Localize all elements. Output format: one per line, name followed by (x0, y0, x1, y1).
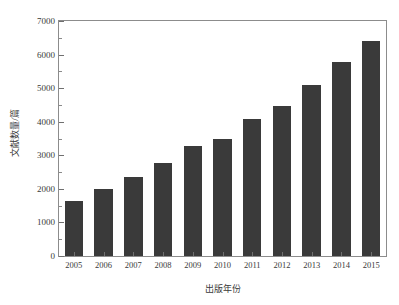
x-axis-tick-label: 2009 (184, 260, 201, 270)
plot-area: 0100020003000400050006000700020052006200… (59, 21, 386, 256)
bar (94, 189, 112, 256)
bar (273, 106, 291, 256)
y-axis-tick: 4000 (59, 122, 64, 123)
y-axis-tick: 7000 (59, 21, 64, 22)
bar (184, 146, 202, 256)
y-axis-tick-label: 4000 (37, 117, 55, 126)
x-axis-tick-label: 2008 (155, 260, 172, 270)
x-axis-tick: 2012 (282, 252, 283, 256)
y-axis-minor-tick (59, 239, 62, 240)
y-axis-minor-tick (59, 71, 62, 72)
x-axis-tick-label: 2012 (273, 260, 290, 270)
bar (154, 163, 172, 256)
y-axis-tick: 5000 (59, 88, 64, 89)
y-axis-tick-label: 7000 (37, 17, 55, 26)
x-axis-tick: 2005 (74, 252, 75, 256)
bar (362, 41, 380, 256)
bar (332, 62, 350, 256)
y-axis-tick: 6000 (59, 55, 64, 56)
bar-chart-figure: 文献数量/篇 010002000300040005000600070002005… (0, 0, 399, 305)
y-axis-title: 文献数量/篇 (8, 15, 22, 252)
x-axis-tick: 2009 (193, 252, 194, 256)
x-axis-tick-label: 2015 (363, 260, 380, 270)
x-axis-tick-label: 2014 (333, 260, 350, 270)
plot-frame: 0100020003000400050006000700020052006200… (58, 20, 387, 257)
y-axis-minor-tick (59, 172, 62, 173)
x-axis-tick: 2010 (223, 252, 224, 256)
x-axis-tick-label: 2006 (95, 260, 112, 270)
x-axis-tick: 2006 (104, 252, 105, 256)
y-axis-tick: 1000 (59, 222, 64, 223)
bar (213, 139, 231, 257)
y-axis-minor-tick (59, 38, 62, 39)
y-axis-minor-tick (59, 139, 62, 140)
bar (243, 119, 261, 256)
bar (65, 201, 83, 256)
y-axis-tick-label: 1000 (37, 218, 55, 227)
x-axis-tick-label: 2011 (244, 260, 261, 270)
x-axis-tick: 2008 (163, 252, 164, 256)
bar (124, 177, 142, 256)
y-axis-tick-label: 5000 (37, 84, 55, 93)
y-axis-tick-label: 6000 (37, 50, 55, 59)
x-axis-tick: 2014 (341, 252, 342, 256)
y-axis-minor-tick (59, 105, 62, 106)
y-axis-tick: 3000 (59, 155, 64, 156)
x-axis-tick: 2013 (312, 252, 313, 256)
y-axis-minor-tick (59, 206, 62, 207)
x-axis-title: 出版年份 (58, 283, 388, 295)
x-axis-tick: 2011 (252, 252, 253, 256)
x-axis-tick-label: 2005 (65, 260, 82, 270)
y-axis-tick: 0 (59, 256, 64, 257)
x-axis-tick: 2015 (371, 252, 372, 256)
y-axis-tick: 2000 (59, 189, 64, 190)
x-axis-tick-label: 2013 (303, 260, 320, 270)
x-axis-tick-label: 2010 (214, 260, 231, 270)
y-axis-tick-label: 2000 (37, 184, 55, 193)
x-axis-tick: 2007 (133, 252, 134, 256)
y-axis-tick-label: 0 (51, 252, 56, 261)
y-axis-tick-label: 3000 (37, 151, 55, 160)
bar (302, 85, 320, 256)
x-axis-tick-label: 2007 (125, 260, 142, 270)
